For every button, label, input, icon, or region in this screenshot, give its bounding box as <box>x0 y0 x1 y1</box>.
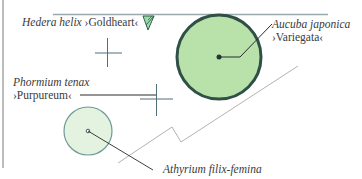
label-phormium-cultivar: ›Purpureum‹ <box>13 89 72 101</box>
label-hedera-species: Hedera helix <box>22 16 82 28</box>
label-hedera-cultivar: ›Goldheart‹ <box>85 16 139 28</box>
label-hedera: Hedera helix ›Goldheart‹ <box>22 16 138 29</box>
label-phormium-species: Phormium tenax <box>13 76 89 88</box>
hedera-triangle-icon <box>143 16 154 30</box>
label-aucuba-cultivar: ›Variegata‹ <box>272 31 323 43</box>
label-aucuba: Aucuba japonica ›Variegata‹ <box>272 18 350 44</box>
label-aucuba-species: Aucuba japonica <box>272 18 350 30</box>
planting-diagram: Hedera helix ›Goldheart‹ Aucuba japonica… <box>0 0 362 179</box>
label-athyrium: Athyrium filix-femina <box>163 163 262 176</box>
label-athyrium-species: Athyrium filix-femina <box>163 163 262 175</box>
label-phormium: Phormium tenax ›Purpureum‹ <box>13 76 89 102</box>
